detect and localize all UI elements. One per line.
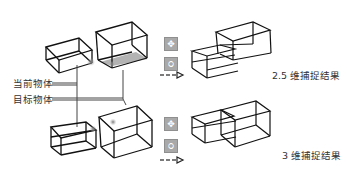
- arrow-top: [160, 72, 183, 78]
- result-3d-label: 3 维捕捉结果: [282, 150, 341, 161]
- snap-point-marker: [87, 58, 95, 66]
- current-object-box-top: [46, 38, 92, 73]
- move-tool-button-bottom[interactable]: ✥: [164, 117, 178, 131]
- snap-tool-button-bottom[interactable]: ଠ: [164, 139, 178, 153]
- result-3d-boxes: [192, 101, 270, 147]
- snap-comparison-diagram: 当前物体 目标物体 2.5 维捕捉结果 3 维捕捉结果 ✥ ଠ ✥ ଠ: [0, 0, 347, 174]
- leader-lines: [52, 65, 126, 127]
- move-icon: ✥: [167, 40, 175, 49]
- target-object-box-top: [96, 22, 148, 68]
- snap-icon: ଠ: [168, 60, 174, 69]
- current-object-box-bottom: [51, 122, 96, 155]
- snap-tool-button-top[interactable]: ଠ: [164, 57, 178, 71]
- result-2-5d-label: 2.5 维捕捉结果: [272, 70, 340, 81]
- arrow-bottom: [160, 157, 183, 163]
- result-2-5d-boxes: [192, 22, 271, 78]
- snap-icon: ଠ: [168, 142, 174, 151]
- target-object-label: 目标物体: [13, 94, 53, 105]
- move-icon: ✥: [167, 120, 175, 129]
- current-object-label: 当前物体: [13, 78, 53, 89]
- move-tool-button-top[interactable]: ✥: [164, 37, 178, 51]
- target-object-box-bottom: [99, 106, 152, 158]
